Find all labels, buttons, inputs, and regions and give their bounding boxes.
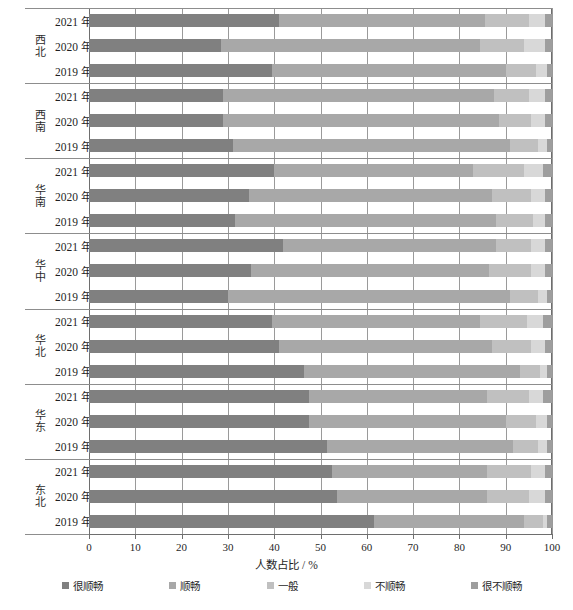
year-label: 2020 年 [55,38,89,54]
bar-segment-很顺畅 [89,189,249,202]
region-label-text: 西南 [32,109,48,133]
chart-row: 2021 年 [55,309,552,334]
legend-label: 不顺畅 [375,578,405,593]
x-axis-tick [89,534,90,539]
bar-segment-顺畅 [272,64,506,77]
bar-segment-很不顺畅 [543,390,552,403]
bar-segment-很不顺畅 [547,440,552,453]
region-label: 华东 [25,384,55,459]
bar-segment-顺畅 [251,264,489,277]
year-label: 2019 年 [55,213,89,229]
year-label: 2021 年 [55,388,89,404]
bar-segment-不顺畅 [531,264,545,277]
bar-segment-顺畅 [223,89,494,102]
bar-segment-一般 [510,290,538,303]
chart-row: 2019 年 [55,208,552,233]
bar-segment-一般 [506,64,536,77]
region-label-text: 华东 [32,409,48,433]
bar-segment-不顺畅 [531,239,545,252]
bar-segment-很顺畅 [89,315,272,328]
region-label-text: 东北 [32,484,48,508]
bar-segment-很不顺畅 [547,64,552,77]
stacked-bar [89,315,552,328]
chart-row: 2020 年 [55,409,552,434]
legend-swatch-icon [471,582,478,589]
chart-row: 2019 年 [55,284,552,309]
x-axis-tick-label: 100 [544,541,561,553]
legend-item[interactable]: 很不顺畅 [471,578,522,593]
bar-segment-顺畅 [228,290,510,303]
x-axis-tick [135,534,136,539]
chart-row: 2021 年 [55,8,552,33]
region-label: 华中 [25,233,55,308]
x-axis-tick-label: 90 [500,541,511,553]
year-label: 2021 年 [55,463,89,479]
bar-segment-一般 [489,264,531,277]
x-axis-tick-label: 50 [315,541,326,553]
stacked-bar [89,89,552,102]
x-axis-tick-label: 80 [454,541,465,553]
bar-segment-很顺畅 [89,340,279,353]
bar-segment-不顺畅 [531,465,545,478]
bar-segment-很不顺畅 [543,164,552,177]
year-row-list: 2021 年2020 年2019 年 [55,309,552,384]
bar-segment-不顺畅 [529,390,543,403]
bar-segment-很不顺畅 [545,490,552,503]
bar-segment-一般 [494,89,529,102]
bar-segment-不顺畅 [531,114,545,127]
stacked-bar [89,515,552,528]
x-axis [89,534,552,535]
bar-segment-顺畅 [249,189,492,202]
year-row-list: 2021 年2020 年2019 年 [55,158,552,233]
bar-segment-很不顺畅 [545,14,552,27]
bar-segment-不顺畅 [527,315,543,328]
chart-row: 2019 年 [55,58,552,83]
bar-segment-一般 [487,465,531,478]
legend-swatch-icon [364,582,371,589]
x-axis-tick [274,534,275,539]
year-label: 2021 年 [55,163,89,179]
legend-item[interactable]: 不顺畅 [364,578,405,593]
bar-segment-很顺畅 [89,515,374,528]
x-axis-tick-label: 0 [86,541,92,553]
group-separator [25,384,552,385]
x-axis-tick [459,534,460,539]
year-label: 2019 年 [55,138,89,154]
x-axis-title: 人数占比 / % [0,556,573,572]
bar-segment-很顺畅 [89,14,279,27]
bar-segment-很顺畅 [89,415,309,428]
year-label: 2020 年 [55,188,89,204]
bar-segment-顺畅 [223,114,498,127]
stacked-bar [89,365,552,378]
region-label: 华北 [25,309,55,384]
x-axis-tick [228,534,229,539]
chart-row: 2021 年 [55,384,552,409]
x-axis-tick [413,534,414,539]
bar-segment-很顺畅 [89,365,304,378]
bar-segment-不顺畅 [529,490,545,503]
legend-item[interactable]: 顺畅 [169,578,200,593]
bar-segment-一般 [520,365,541,378]
bar-segment-很不顺畅 [547,290,552,303]
year-label: 2020 年 [55,113,89,129]
group-separator [25,158,552,159]
year-row-list: 2021 年2020 年2019 年 [55,459,552,534]
stacked-bar [89,290,552,303]
chart-row: 2020 年 [55,183,552,208]
chart-row: 2019 年 [55,509,552,534]
bar-segment-不顺畅 [533,214,545,227]
bar-segment-一般 [480,315,526,328]
stacked-bar [89,39,552,52]
bar-segment-很顺畅 [89,390,309,403]
x-axis-tick [321,534,322,539]
bar-segment-很不顺畅 [547,415,552,428]
legend-item[interactable]: 很顺畅 [62,578,103,593]
region-group: 华东2021 年2020 年2019 年 [25,384,552,459]
bar-segment-一般 [524,515,543,528]
bar-segment-一般 [499,114,531,127]
stacked-bar [89,214,552,227]
legend-item[interactable]: 一般 [267,578,298,593]
x-axis-tick-label: 20 [176,541,187,553]
bar-segment-很不顺畅 [545,89,552,102]
region-group: 东北2021 年2020 年2019 年 [25,459,552,534]
